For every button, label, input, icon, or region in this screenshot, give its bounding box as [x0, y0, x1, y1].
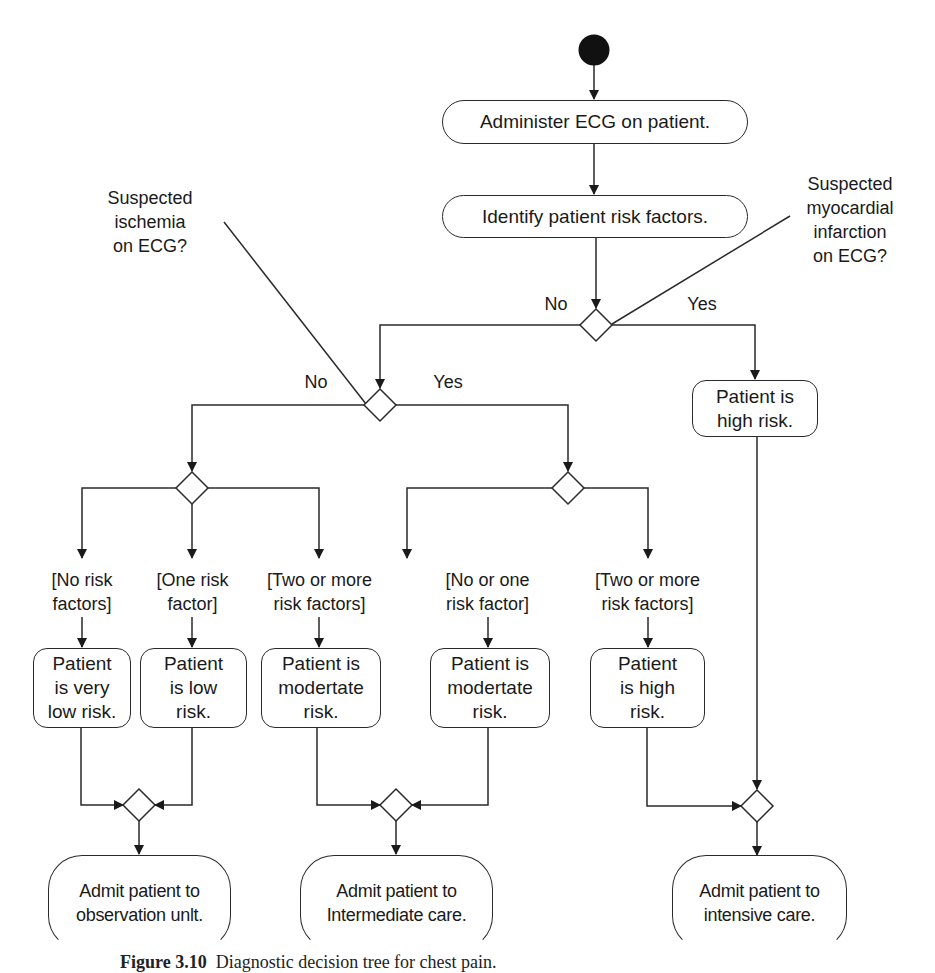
guard-no-risk: [No risk factors] — [32, 568, 132, 616]
action-admit-intermediate: Admit patient to Intermediate care. — [300, 855, 493, 950]
guard-two-more-a: [Two or more risk factors] — [252, 568, 387, 616]
decision-risk-left — [176, 472, 208, 504]
action-identify-risk: Identify patient risk factors. — [442, 195, 748, 238]
label-mi-yes: Yes — [680, 292, 724, 316]
action-administer-ecg: Administer ECG on patient. — [442, 100, 748, 144]
figure-caption: Figure 3.10 Diagnostic decision tree for… — [120, 952, 497, 973]
decision-ischemia — [364, 389, 396, 421]
question-mi: Suspected myocardial infarction on ECG? — [790, 172, 910, 268]
merge-intensive — [741, 790, 773, 822]
caption-label: Figure 3.10 — [120, 952, 207, 972]
question-ischemia: Suspected ischemia on ECG? — [100, 186, 200, 258]
label-ischemia-no: No — [296, 370, 336, 394]
label-mi-no: No — [536, 292, 576, 316]
guard-no-or-one: [No or one risk factor] — [425, 568, 550, 616]
decision-risk-right — [552, 472, 584, 504]
guard-two-more-b: [Two or more risk factors] — [580, 568, 715, 616]
label-ischemia-yes: Yes — [426, 370, 470, 394]
start-node — [579, 35, 610, 66]
decision-mi — [580, 309, 612, 341]
action-admit-observation: Admit patient to observation unlt. — [48, 855, 231, 950]
merge-observation — [123, 789, 155, 821]
merge-intermediate — [380, 789, 412, 821]
caption-text: Diagnostic decision tree for chest pain. — [216, 952, 497, 972]
action-very-low-risk: Patient is very low risk. — [33, 648, 131, 728]
action-admit-intensive: Admit patient to intensive care. — [672, 855, 847, 950]
action-low-risk: Patient is low risk. — [140, 648, 247, 728]
action-moderate-risk-a: Patient is modertate risk. — [261, 648, 381, 728]
action-moderate-risk-b: Patient is modertate risk. — [430, 648, 550, 728]
action-high-risk-mi: Patient is high risk. — [692, 380, 818, 437]
action-high-risk-b: Patient is high risk. — [590, 648, 705, 728]
guard-one-risk: [One risk factor] — [140, 568, 245, 616]
